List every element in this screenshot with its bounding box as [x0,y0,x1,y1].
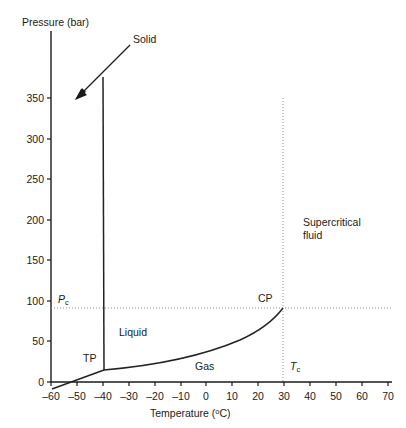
x-tick-label--30: –30 [115,390,143,402]
x-axis-title-prefix: Temperature ( [150,407,215,419]
critical-pressure-symbol: P [58,293,65,305]
x-tick-label-40: 40 [296,390,324,402]
region-label-supercritical-line1: Supercritical [303,216,361,228]
x-tick-label--50: –50 [63,390,91,402]
y-tick-label-50: 50 [6,335,44,347]
y-tick-label-350: 350 [6,92,44,104]
x-tick-label--40: –40 [89,390,117,402]
fusion-curve [103,77,104,370]
x-tick-label-0: 0 [192,390,220,402]
phase-diagram-figure: Pressure (bar) 350 300 250 200 150 100 5… [0,0,406,428]
y-tick-label-150: 150 [6,254,44,266]
x-tick-label-60: 60 [348,390,376,402]
region-label-supercritical-line2: fluid [303,229,322,241]
region-label-liquid: Liquid [119,326,147,338]
sublimation-curve [52,370,104,389]
y-tick-label-300: 300 [6,133,44,145]
y-axis-title: Pressure (bar) [22,16,89,28]
y-tick-label-250: 250 [6,173,44,185]
region-label-solid: Solid [133,33,156,45]
x-tick-label-70: 70 [374,390,402,402]
critical-point-label: CP [258,292,273,304]
x-tick-label--60: –60 [37,390,65,402]
region-label-gas: Gas [195,360,214,372]
y-tick-label-100: 100 [6,295,44,307]
x-tick-label-20: 20 [244,390,272,402]
critical-pressure-label: Pc [58,293,69,309]
critical-temperature-label: Tc [290,360,300,376]
x-tick-label-10: 10 [218,390,246,402]
critical-pressure-subscript: c [65,298,69,307]
x-tick-label-30: 30 [270,390,298,402]
critical-temperature-subscript: c [296,365,300,374]
x-tick-label--10: –10 [167,390,195,402]
x-tick-label-50: 50 [322,390,350,402]
y-tick-label-0: 0 [6,376,44,388]
x-tick-label--20: –20 [141,390,169,402]
triple-point-label: TP [83,352,96,364]
y-tick-label-200: 200 [6,214,44,226]
x-axis-title-suffix: C) [220,407,231,419]
vaporization-curve [104,308,283,370]
x-axis-title: Temperature (oC) [150,406,231,419]
